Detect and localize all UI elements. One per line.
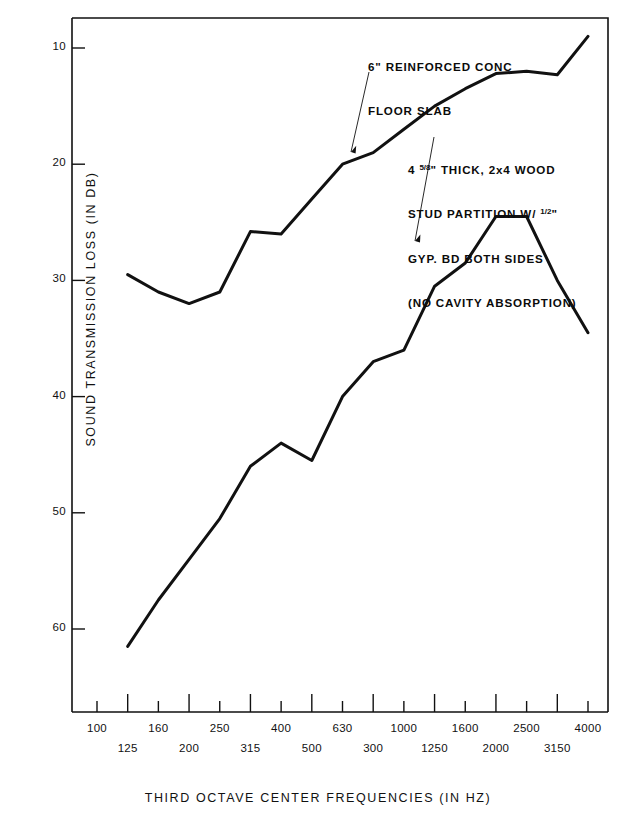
lower-curve-annotation-line3: GYP. BD BOTH SIDES <box>408 252 577 267</box>
y-axis-title-wrap: SOUND TRANSMISSION LOSS (IN DB) <box>81 159 99 459</box>
x-tick-label-315: 315 <box>226 742 274 756</box>
lower-annot-l1-post: " THICK, 2x4 WOOD <box>431 163 556 176</box>
y-tick-label-30: 40 <box>36 389 66 403</box>
x-tick-label-400: 400 <box>257 722 305 736</box>
upper-curve-annotation: 6" REINFORCED CONC FLOOR SLAB <box>368 30 512 149</box>
x-tick-label-4000: 4000 <box>564 722 612 736</box>
upper-leader-line <box>351 72 369 152</box>
x-axis-title: THIRD OCTAVE CENTER FREQUENCIES (IN HZ) <box>0 791 636 806</box>
lower-curve-annotation-line2: STUD PARTITION W/ 1/2" <box>408 207 577 222</box>
data-curves <box>128 36 588 646</box>
lower-annot-l2-pre: STUD PARTITION W/ <box>408 207 540 220</box>
upper-curve-annotation-line1: 6" REINFORCED CONC <box>368 60 512 75</box>
y-tick-label-10: 60 <box>36 621 66 635</box>
x-tick-label-1600: 1600 <box>441 722 489 736</box>
x-tick-label-300: 300 <box>349 742 397 756</box>
x-axis-ticks <box>97 694 588 712</box>
y-tick-label-50: 20 <box>36 156 66 170</box>
x-tick-label-100: 100 <box>73 722 121 736</box>
lower-annot-l2-frac: 1/2 <box>540 207 551 216</box>
lower-annot-l2-post: " <box>551 207 557 220</box>
x-tick-label-3150: 3150 <box>533 742 581 756</box>
lower-annot-l1-frac: 5/8 <box>419 163 430 172</box>
x-tick-label-630: 630 <box>319 722 367 736</box>
y-tick-label-60: 10 <box>36 40 66 54</box>
figure-container: SOUND TRANSMISSION LOSS (IN DB) 60504030… <box>0 0 636 823</box>
x-tick-label-2000: 2000 <box>472 742 520 756</box>
y-axis-title: SOUND TRANSMISSION LOSS (IN DB) <box>84 171 98 446</box>
x-tick-label-125: 125 <box>104 742 152 756</box>
x-tick-label-1000: 1000 <box>380 722 428 736</box>
lower-curve-annotation-line1: 4 5/8" THICK, 2x4 WOOD <box>408 163 577 178</box>
lower-curve-annotation-line4: (NO CAVITY ABSORPTION) <box>408 296 577 311</box>
y-tick-label-20: 50 <box>36 505 66 519</box>
y-tick-label-40: 30 <box>36 272 66 286</box>
x-tick-label-250: 250 <box>196 722 244 736</box>
upper-curve-annotation-line2: FLOOR SLAB <box>368 104 512 119</box>
x-tick-label-500: 500 <box>288 742 336 756</box>
lower-curve-annotation: 4 5/8" THICK, 2x4 WOOD STUD PARTITION W/… <box>408 133 577 341</box>
x-tick-label-2500: 2500 <box>503 722 551 736</box>
x-tick-label-200: 200 <box>165 742 213 756</box>
x-tick-label-1250: 1250 <box>411 742 459 756</box>
lower-annot-l1-pre: 4 <box>408 163 419 176</box>
x-tick-label-160: 160 <box>134 722 182 736</box>
